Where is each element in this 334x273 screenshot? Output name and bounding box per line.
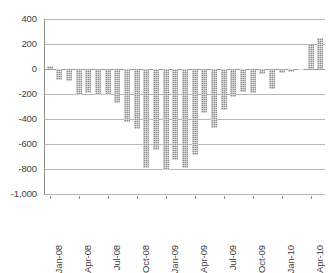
bar bbox=[240, 69, 246, 92]
x-axis-tick-mark bbox=[224, 196, 225, 199]
bar bbox=[114, 69, 120, 103]
x-axis-tick-label: Jul-08 bbox=[112, 245, 122, 270]
x-axis-tick-mark bbox=[50, 196, 51, 199]
bar bbox=[201, 69, 207, 113]
bar bbox=[259, 69, 265, 74]
bar bbox=[47, 66, 53, 69]
bar bbox=[221, 69, 227, 110]
bar bbox=[172, 69, 178, 160]
x-axis-tick-mark bbox=[137, 196, 138, 199]
bar bbox=[134, 69, 140, 129]
bar bbox=[105, 69, 111, 95]
y-axis-tick-label: -600 bbox=[0, 139, 37, 149]
y-axis-tick-label: 400 bbox=[0, 14, 37, 24]
bar bbox=[95, 69, 101, 95]
bar bbox=[230, 69, 236, 97]
x-axis-tick-mark bbox=[311, 196, 312, 199]
bar bbox=[66, 69, 72, 81]
bar bbox=[153, 69, 159, 150]
y-axis-tick-label: 0 bbox=[0, 64, 37, 74]
bars-layer bbox=[45, 19, 325, 194]
bar bbox=[143, 69, 149, 168]
x-axis-tick-label: Jul-09 bbox=[228, 245, 238, 270]
bar bbox=[85, 69, 91, 93]
x-axis-tick-label: Apr-08 bbox=[83, 245, 93, 273]
bar bbox=[298, 69, 304, 70]
bar bbox=[163, 69, 169, 170]
x-axis-tick-label: Jan-08 bbox=[54, 245, 64, 273]
bar bbox=[269, 69, 275, 89]
y-axis-tick-label: -800 bbox=[0, 164, 37, 174]
bar bbox=[308, 45, 314, 69]
x-axis-tick-label: Jan-10 bbox=[286, 245, 296, 273]
y-axis-labels: 4002000-200-400-600-800-1,000 bbox=[0, 0, 37, 247]
x-axis-tick-mark bbox=[108, 196, 109, 199]
bar bbox=[76, 69, 82, 95]
bar bbox=[317, 38, 323, 69]
x-axis-tick-label: Oct-09 bbox=[257, 245, 267, 273]
y-axis-tick-label: 200 bbox=[0, 39, 37, 49]
bar bbox=[192, 69, 198, 155]
x-axis-tick-label: Oct-08 bbox=[141, 245, 151, 273]
y-axis-tick-label: -1,000 bbox=[0, 189, 37, 199]
x-axis-tick-label: Apr-10 bbox=[315, 245, 325, 273]
bar bbox=[182, 69, 188, 168]
gridline bbox=[45, 194, 325, 195]
y-axis-tick-label: -200 bbox=[0, 89, 37, 99]
bar bbox=[279, 69, 285, 73]
bar bbox=[250, 69, 256, 93]
x-axis-tick-mark bbox=[79, 196, 80, 199]
bar bbox=[288, 69, 294, 72]
bar bbox=[56, 69, 62, 80]
bar bbox=[124, 69, 130, 122]
x-axis-tick-mark bbox=[166, 196, 167, 199]
x-axis-tick-mark bbox=[282, 196, 283, 199]
x-axis-tick-label: Apr-09 bbox=[199, 245, 209, 273]
plot-area bbox=[45, 19, 325, 194]
x-axis-labels: Jan-08Apr-08Jul-08Oct-08Jan-09Apr-09Jul-… bbox=[45, 196, 325, 247]
bar bbox=[211, 69, 217, 128]
x-axis-tick-mark bbox=[253, 196, 254, 199]
x-axis-tick-mark bbox=[195, 196, 196, 199]
y-axis-tick-label: -400 bbox=[0, 114, 37, 124]
x-axis-tick-label: Jan-09 bbox=[170, 245, 180, 273]
